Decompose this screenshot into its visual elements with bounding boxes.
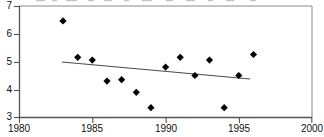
y-axis <box>14 6 20 118</box>
data-point <box>133 89 140 96</box>
data-point <box>206 57 213 64</box>
caption-remnant-artifacts <box>36 0 256 1</box>
data-point <box>191 72 198 79</box>
y-tick-label-4: 4 <box>0 85 12 95</box>
data-point <box>118 76 125 83</box>
y-tick-label-3: 3 <box>0 112 12 122</box>
y-tick-label-5: 5 <box>0 57 12 67</box>
data-point <box>147 104 154 111</box>
x-tick-label-2000: 2000 <box>292 124 324 134</box>
data-point <box>177 54 184 61</box>
x-tick-label-1985: 1985 <box>72 124 112 134</box>
data-point <box>74 54 81 61</box>
x-tick-label-1990: 1990 <box>146 124 186 134</box>
data-point <box>89 57 96 64</box>
plot-area <box>0 0 324 137</box>
data-point <box>221 104 228 111</box>
data-point <box>59 17 66 24</box>
x-tick-label-1995: 1995 <box>219 124 259 134</box>
data-point <box>103 78 110 85</box>
data-point <box>162 64 169 71</box>
x-tick-label-1980: 1980 <box>0 124 39 134</box>
trend-line <box>62 62 250 79</box>
y-tick-label-7: 7 <box>0 1 12 11</box>
scatter-chart: 7 6 5 4 3 1980 1985 1990 1995 2000 <box>0 0 324 137</box>
y-tick-label-6: 6 <box>0 29 12 39</box>
data-point <box>250 51 257 58</box>
